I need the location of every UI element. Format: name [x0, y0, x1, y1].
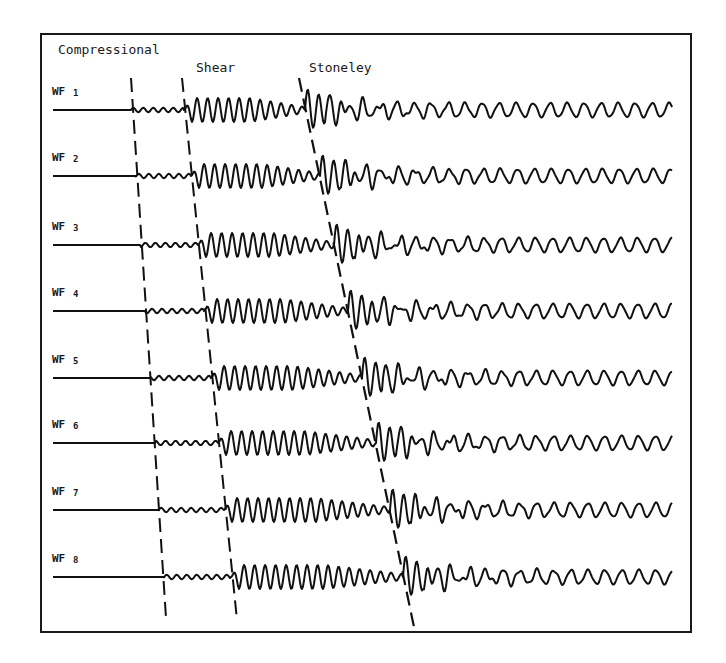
trace-number: 6	[73, 421, 78, 431]
waveform-trace-6	[53, 423, 672, 461]
trace-label: WF	[52, 552, 65, 565]
figure-frame	[41, 34, 691, 632]
waveform-trace-8	[53, 557, 672, 595]
trace-label: WF	[52, 85, 65, 98]
trace-label: WF	[52, 418, 65, 431]
trace-number: 5	[73, 356, 78, 366]
stoneley-label: Stoneley	[309, 60, 372, 75]
waveform-trace-2	[53, 156, 672, 194]
shear-arrival-line	[182, 78, 237, 620]
trace-label: WF	[52, 353, 65, 366]
waveform-trace-7	[53, 490, 672, 528]
trace-label: WF	[52, 485, 65, 498]
waveform-plot: Compressional Shear Stoneley WF1WF2WF3WF…	[0, 0, 726, 663]
waveform-trace-3	[53, 225, 672, 263]
trace-number: 1	[73, 88, 78, 98]
compressional-arrival-line	[131, 78, 166, 618]
trace-number: 7	[73, 488, 78, 498]
sonic-waveform-figure: Compressional Shear Stoneley WF1WF2WF3WF…	[0, 0, 726, 663]
shear-label: Shear	[196, 60, 235, 75]
compressional-label: Compressional	[58, 42, 160, 57]
stoneley-arrival-line	[299, 78, 414, 627]
waveform-traces: WF1WF2WF3WF4WF5WF6WF7WF8	[52, 85, 672, 595]
trace-number: 3	[73, 223, 78, 233]
trace-number: 4	[73, 289, 79, 299]
trace-label: WF	[52, 286, 65, 299]
trace-label: WF	[52, 151, 65, 164]
waveform-trace-1	[53, 90, 672, 128]
trace-number: 8	[73, 555, 78, 565]
trace-number: 2	[73, 154, 78, 164]
trace-label: WF	[52, 220, 65, 233]
